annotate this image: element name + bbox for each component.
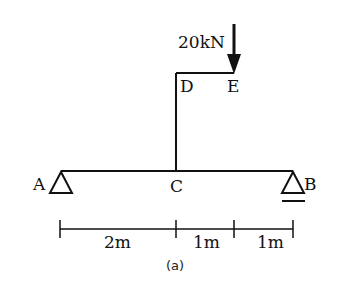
node-label-c: C — [170, 176, 183, 196]
dimension-label-ac: 2m — [104, 232, 131, 252]
pin-support-icon — [50, 172, 72, 193]
node-label-a: A — [32, 174, 46, 194]
beam-diagram: 20kN D E A C B 2m 1m 1m (a) — [0, 0, 346, 304]
dimension-label-eb: 1m — [257, 232, 284, 252]
node-label-b: B — [304, 174, 317, 194]
node-label-d: D — [180, 76, 194, 96]
roller-support-icon — [282, 172, 305, 201]
dimension-label-ce: 1m — [193, 232, 220, 252]
load-label: 20kN — [178, 32, 225, 52]
figure-caption: (a) — [166, 258, 184, 273]
load-arrow-icon — [227, 24, 241, 74]
node-label-e: E — [227, 76, 239, 96]
